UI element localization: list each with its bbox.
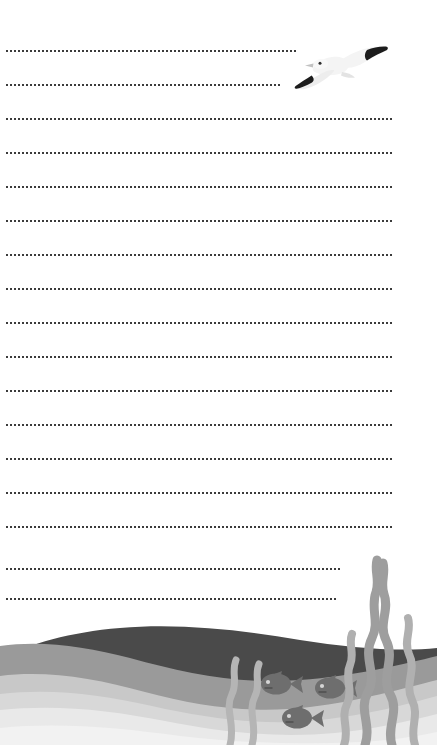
writing-line (6, 288, 392, 290)
writing-line (6, 254, 392, 256)
stationery-page: Seaside Stationery Writing Paper (0, 0, 437, 745)
writing-lines (0, 0, 437, 745)
writing-line (6, 152, 392, 154)
writing-line (6, 526, 392, 528)
writing-line (6, 220, 392, 222)
writing-line (6, 598, 336, 600)
writing-line (6, 356, 392, 358)
writing-line (6, 390, 392, 392)
writing-line (6, 84, 281, 86)
gull-tail (341, 72, 355, 78)
writing-line (6, 118, 392, 120)
writing-line (6, 322, 392, 324)
seagull-icon (293, 41, 389, 99)
gull-eye (319, 62, 322, 65)
writing-line (6, 424, 392, 426)
gull-beak (305, 64, 313, 68)
writing-line (6, 186, 392, 188)
writing-line (6, 50, 296, 52)
writing-line (6, 568, 341, 570)
writing-line (6, 492, 392, 494)
writing-line (6, 458, 392, 460)
